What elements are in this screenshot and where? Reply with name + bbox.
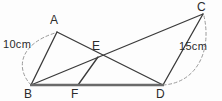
measure-label-left-10cm: 10cm bbox=[3, 39, 31, 50]
vertex-label-F: F bbox=[71, 88, 78, 100]
vertex-label-A: A bbox=[50, 14, 58, 26]
measure-label-right-15cm: 15cm bbox=[179, 41, 207, 52]
segment-BA bbox=[31, 32, 57, 85]
segment-AD bbox=[57, 32, 163, 85]
vertex-label-E: E bbox=[92, 40, 100, 52]
geometry-figure: A B C D E F 10cm 15cm bbox=[0, 0, 222, 101]
vertex-label-D: D bbox=[156, 88, 165, 100]
vertex-label-C: C bbox=[197, 1, 206, 13]
vertex-label-B: B bbox=[24, 88, 32, 100]
